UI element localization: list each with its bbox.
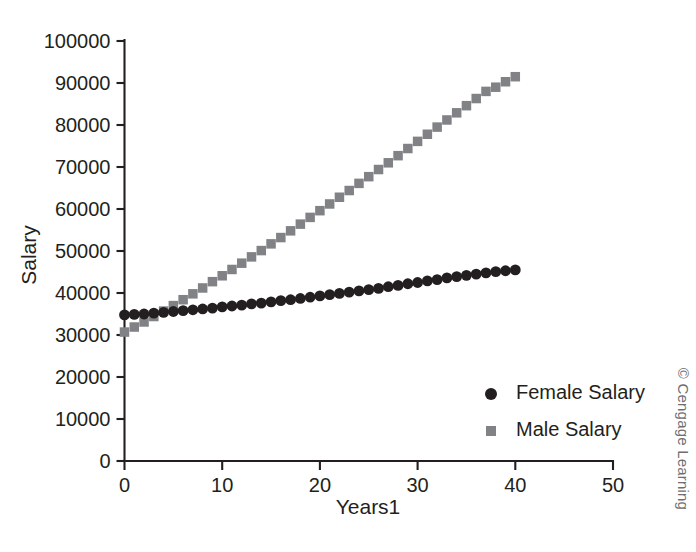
data-point-female-salary [510,265,521,276]
data-point-female-salary [422,275,433,286]
data-point-female-salary [315,291,326,302]
data-point-male-salary [208,277,218,287]
data-point-male-salary [130,322,140,332]
x-axis-title: Years1 [336,495,401,518]
data-point-male-salary [315,206,325,216]
data-point-female-salary [119,309,130,320]
y-tick-label: 80000 [55,114,111,136]
x-tick-label: 50 [602,474,624,496]
data-point-female-salary [354,286,365,297]
y-tick-label: 10000 [55,408,111,430]
data-point-male-salary [442,115,452,125]
data-point-male-salary [344,186,354,196]
data-point-male-salary [188,289,198,299]
y-tick-label: 50000 [55,240,111,262]
data-point-male-salary [257,246,267,256]
data-point-female-salary [373,283,384,294]
data-point-female-salary [383,281,394,292]
data-point-female-salary [285,294,296,305]
data-point-male-salary [178,295,188,305]
data-point-male-salary [276,233,286,243]
data-point-female-salary [471,269,482,280]
data-point-female-salary [461,270,472,281]
data-point-male-salary [325,199,335,209]
data-point-female-salary [207,303,218,314]
x-tick-label: 40 [504,474,526,496]
data-point-male-salary [393,151,403,161]
data-point-male-salary [423,129,433,139]
data-point-female-salary [236,300,247,311]
y-axis-ticks [117,41,125,461]
y-tick-label: 30000 [55,324,111,346]
data-point-female-salary [187,304,198,315]
data-point-male-salary [120,327,130,337]
data-point-male-salary [266,239,276,249]
data-point-female-salary [324,289,335,300]
data-point-female-salary [363,284,374,295]
data-point-female-salary [451,271,462,282]
data-point-female-salary [139,309,150,320]
data-point-female-salary [500,265,511,276]
x-axis-ticks [125,461,614,470]
legend-label: Male Salary [516,418,622,440]
data-point-male-salary [432,122,442,132]
y-tick-label: 100000 [44,30,111,52]
data-point-male-salary [237,258,247,268]
data-point-female-salary [442,272,453,283]
data-point-male-salary [286,226,296,236]
data-series-female-salary [119,265,521,321]
chart-legend: Female SalaryMale Salary [485,381,645,440]
data-point-female-salary [168,306,179,317]
data-point-male-salary [491,82,501,92]
data-point-female-salary [305,292,316,303]
y-tick-label: 0 [99,450,110,472]
data-point-male-salary [354,179,364,189]
data-point-female-salary [217,301,228,312]
data-point-female-salary [197,304,208,315]
y-tick-label: 90000 [55,72,111,94]
y-axis-tick-labels: 0100002000030000400005000060000700008000… [44,30,111,472]
x-tick-label: 10 [211,474,233,496]
data-point-female-salary [334,288,345,299]
y-tick-label: 40000 [55,282,111,304]
data-point-male-salary [384,158,394,168]
y-tick-label: 60000 [55,198,111,220]
data-point-female-salary [275,295,286,306]
data-point-male-salary [198,283,208,293]
data-point-female-salary [129,309,140,320]
data-point-male-salary [227,265,237,275]
data-point-male-salary [462,101,472,111]
legend-marker-male-salary [486,426,496,436]
data-point-male-salary [501,77,511,87]
salary-scatter-figure: 0100002000030000400005000060000700008000… [0,0,696,552]
data-point-male-salary [364,172,374,182]
data-point-female-salary [256,298,267,309]
x-tick-label: 20 [309,474,331,496]
data-point-female-salary [490,266,501,277]
data-point-female-salary [344,287,355,298]
data-point-male-salary [335,192,345,202]
x-axis-tick-labels: 01020304050 [119,474,624,496]
data-point-female-salary [295,293,306,304]
x-tick-label: 30 [406,474,428,496]
x-tick-label: 0 [119,474,130,496]
data-point-male-salary [217,271,227,281]
data-point-female-salary [227,301,238,312]
data-point-female-salary [266,296,277,307]
copyright-credit: © Cengage Learning [672,334,694,544]
data-point-male-salary [452,108,462,118]
legend-marker-female-salary [485,388,497,400]
data-point-female-salary [178,305,189,316]
data-point-male-salary [481,87,491,97]
data-point-female-salary [412,277,423,288]
data-point-male-salary [413,137,423,147]
y-axis-title: Salary [17,225,40,285]
y-tick-label: 20000 [55,366,111,388]
data-point-female-salary [432,274,443,285]
data-point-male-salary [305,213,315,223]
data-point-male-salary [247,252,257,262]
legend-label: Female Salary [516,381,645,403]
copyright-credit-text: © Cengage Learning [675,368,692,510]
data-point-male-salary [374,165,384,175]
data-point-female-salary [158,307,169,318]
